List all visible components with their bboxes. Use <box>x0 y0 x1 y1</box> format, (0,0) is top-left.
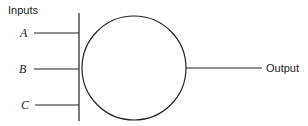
input-label-a: A <box>19 26 28 40</box>
summing-node-circle <box>82 16 186 120</box>
input-label-c: C <box>21 98 30 112</box>
neuron-diagram: Inputs A B C Output <box>0 0 308 126</box>
output-label: Output <box>266 62 299 74</box>
input-label-b: B <box>19 62 27 76</box>
inputs-title: Inputs <box>8 4 38 16</box>
